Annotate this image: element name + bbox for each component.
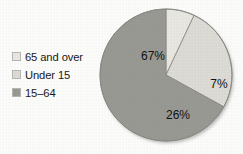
slice-data-label-15-64: 67% [141,49,165,63]
slice-data-label-65-and-over: 7% [210,77,228,91]
legend-item-65-and-over: 65 and over [12,48,102,65]
pie-svg: 67% 26% 7% [96,4,242,152]
legend-swatch-under-15 [12,70,21,79]
legend-swatch-15-64 [12,88,21,97]
pie-chart-figure: 65 and over Under 15 15–64 67 [0,0,243,154]
legend-item-15-64: 15–64 [12,84,102,101]
legend-label-65-and-over: 65 and over [25,51,83,63]
legend-label-15-64: 15–64 [25,87,56,99]
legend-item-under-15: Under 15 [12,66,102,83]
chart-legend: 65 and over Under 15 15–64 [12,48,102,102]
legend-swatch-65-and-over [12,52,21,61]
pie-graphic: 67% 26% 7% [96,4,242,152]
slice-data-label-under-15: 26% [166,108,190,122]
legend-label-under-15: Under 15 [25,69,70,81]
